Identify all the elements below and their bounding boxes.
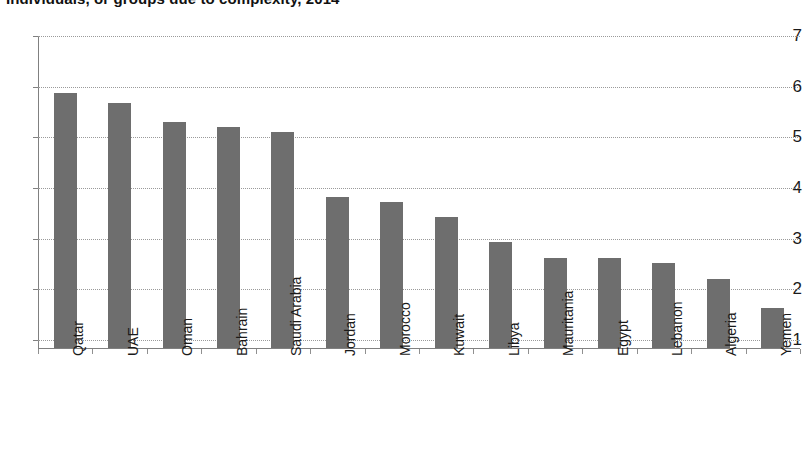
x-tick-label: Morocco: [398, 302, 412, 356]
x-tick-label: Bahrain: [235, 308, 249, 356]
x-tick-label: Egypt: [616, 320, 630, 356]
gridline: [38, 36, 800, 37]
x-tick-mark: [582, 349, 583, 354]
x-tick-mark: [528, 349, 529, 354]
x-tick-mark: [419, 349, 420, 354]
x-tick-mark: [691, 349, 692, 354]
x-tick-mark: [38, 349, 39, 354]
bar: [108, 103, 131, 348]
x-tick-label: Jordan: [343, 313, 357, 356]
bar: [163, 122, 186, 348]
x-tick-mark: [147, 349, 148, 354]
x-tick-label: Yemen: [779, 313, 793, 356]
gridline: [38, 289, 800, 290]
x-tick-label: Kuwait: [452, 314, 466, 356]
chart-title: Individuals, or groups due to complexity…: [6, 0, 340, 7]
x-tick-mark: [365, 349, 366, 354]
x-tick-label: Algeria: [724, 312, 738, 356]
gridline: [38, 137, 800, 138]
bar: [54, 93, 77, 348]
x-tick-label: Libya: [507, 323, 521, 356]
x-tick-mark: [746, 349, 747, 354]
gridline: [38, 239, 800, 240]
chart-title-strip: Individuals, or groups due to complexity…: [0, 0, 810, 12]
x-tick-mark: [473, 349, 474, 354]
x-tick-mark: [800, 349, 801, 354]
x-tick-label: Saudi Arabia: [289, 277, 303, 356]
x-tick-label: Mauritania: [561, 291, 575, 356]
x-tick-mark: [310, 349, 311, 354]
x-tick-label: Qatar: [71, 321, 85, 356]
gridline: [38, 340, 800, 341]
x-tick-label: Lebanon: [670, 301, 684, 356]
x-tick-label: UAE: [126, 327, 140, 356]
x-tick-label: Oman: [180, 318, 194, 356]
plot-area: [38, 36, 800, 348]
bar-chart: Individuals, or groups due to complexity…: [0, 0, 810, 469]
gridline: [38, 87, 800, 88]
x-tick-mark: [637, 349, 638, 354]
gridline: [38, 188, 800, 189]
x-tick-mark: [256, 349, 257, 354]
x-tick-mark: [201, 349, 202, 354]
x-tick-mark: [92, 349, 93, 354]
